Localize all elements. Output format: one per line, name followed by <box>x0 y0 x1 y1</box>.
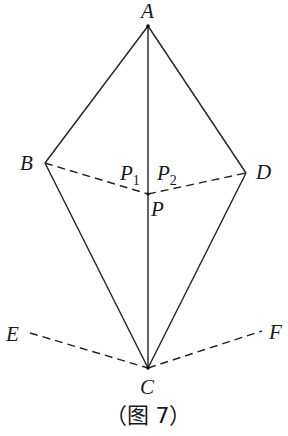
label-p: P <box>150 197 164 221</box>
label-p1: P1 <box>119 161 140 188</box>
point-p-dot <box>147 193 150 196</box>
point-a-dot <box>146 24 150 28</box>
label-p2: P2 <box>156 161 177 188</box>
label-b: B <box>20 151 33 175</box>
segment-cf <box>148 331 262 368</box>
segment-bc <box>45 163 148 368</box>
figure-caption: （图 7） <box>105 403 192 428</box>
segment-ad <box>148 26 246 173</box>
label-p2-sub: 2 <box>170 173 177 188</box>
kite-geometry-figure: A B D P C E F P1 P2 （图 7） <box>0 0 288 436</box>
label-p1-main: P <box>119 161 133 185</box>
label-a: A <box>139 0 154 23</box>
label-e: E <box>5 322 19 346</box>
label-p2-main: P <box>156 161 170 185</box>
segment-ec <box>30 333 148 368</box>
point-c-dot <box>146 366 150 370</box>
label-p1-sub: 1 <box>133 173 140 188</box>
segment-ab <box>45 26 148 163</box>
label-f: F <box>268 320 282 344</box>
label-d: D <box>255 160 271 184</box>
label-c: C <box>140 375 155 399</box>
